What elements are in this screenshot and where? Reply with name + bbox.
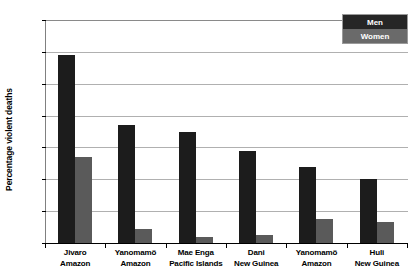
bar-men bbox=[58, 55, 75, 243]
legend-label-men: Men bbox=[367, 18, 383, 27]
x-axis-label: YanomamöAmazon bbox=[286, 248, 346, 269]
violent-deaths-bar-chart: Percentage violent deaths 01020304050607… bbox=[0, 0, 415, 279]
legend: Men Women bbox=[342, 14, 408, 44]
x-axis-label: JivaroAmazon bbox=[45, 248, 105, 269]
bar-men bbox=[118, 125, 135, 243]
bar-women bbox=[196, 237, 213, 243]
legend-item-women: Women bbox=[343, 29, 407, 43]
bar-group bbox=[105, 20, 165, 243]
bars-layer bbox=[45, 20, 407, 243]
bar-women bbox=[256, 235, 273, 243]
bar-group bbox=[45, 20, 105, 243]
legend-label-women: Women bbox=[361, 32, 390, 41]
bar-group bbox=[347, 20, 407, 243]
bar-men bbox=[239, 151, 256, 243]
bar-men bbox=[360, 179, 377, 243]
bar-men bbox=[179, 132, 196, 244]
x-axis-label: HuliNew Guinea bbox=[347, 248, 407, 269]
bar-group bbox=[286, 20, 346, 243]
bar-women bbox=[316, 219, 333, 243]
legend-item-men: Men bbox=[343, 15, 407, 29]
x-tick-mark bbox=[407, 243, 408, 248]
x-axis-label: YanomamöAmazon bbox=[105, 248, 165, 269]
bar-men bbox=[299, 167, 316, 243]
bar-women bbox=[377, 222, 394, 243]
bar-group bbox=[166, 20, 226, 243]
x-axis-label: DaniNew Guinea bbox=[226, 248, 286, 269]
bar-women bbox=[135, 229, 152, 243]
bar-women bbox=[75, 157, 92, 243]
y-axis-title: Percentage violent deaths bbox=[0, 0, 18, 279]
x-axis-label: Mae EngaPacific Islands bbox=[166, 248, 226, 269]
x-tick-mark bbox=[45, 243, 46, 248]
bar-group bbox=[226, 20, 286, 243]
